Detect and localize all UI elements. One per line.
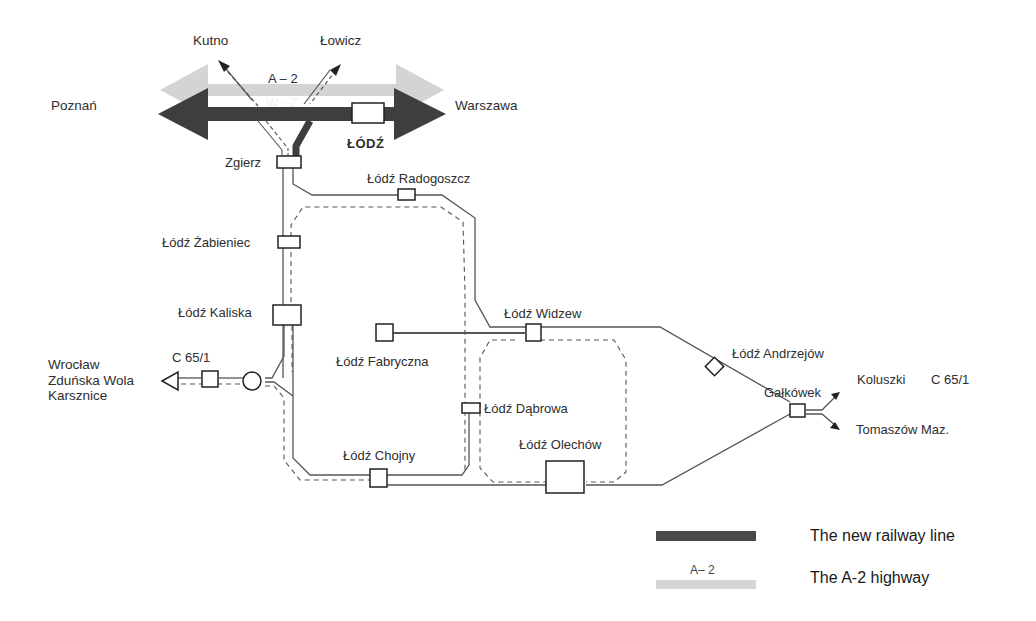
label-wz: W - Z xyxy=(266,95,298,110)
label-station-widzew: Łódź Widzew xyxy=(504,306,581,321)
label-station-dabrowa: Łódź Dąbrowa xyxy=(484,401,568,416)
station-zgierz-box xyxy=(277,156,301,168)
label-station-zabieniec: Łódź Żabieniec xyxy=(162,235,250,250)
arrow-lowicz-icon xyxy=(330,64,341,76)
new-railway-line xyxy=(158,88,446,160)
station-markers xyxy=(162,156,805,493)
label-warszawa: Warszawa xyxy=(455,98,518,113)
junction-circle xyxy=(243,372,261,390)
station-olechow-box xyxy=(546,461,584,493)
station-fabryczna-box xyxy=(376,324,393,341)
label-lodz: ŁÓDŹ xyxy=(347,136,384,151)
label-lowicz: Łowicz xyxy=(320,33,361,48)
arrow-kutno-icon xyxy=(218,60,230,72)
label-station-galkowek: Gałkówek xyxy=(764,385,821,400)
station-dabrowa-box xyxy=(462,403,480,413)
legend-highway-label: The A-2 highway xyxy=(810,569,929,587)
tracks-solid xyxy=(176,167,836,485)
legend-railway-label: The new railway line xyxy=(810,527,955,545)
station-widzew-box xyxy=(526,324,541,341)
legend-swatches xyxy=(656,531,756,589)
legend-highway-swatch-text: A– 2 xyxy=(690,563,715,578)
label-a2: A – 2 xyxy=(268,71,298,86)
label-poznan: Poznań xyxy=(51,98,97,113)
station-zabieniec-box xyxy=(278,236,300,248)
label-station-zgierz: Zgierz xyxy=(225,155,261,170)
label-station-fabryczna: Łódź Fabryczna xyxy=(336,354,429,369)
arrow-tomaszow-icon xyxy=(830,422,840,430)
label-east-line: C 65/1 xyxy=(931,372,969,387)
station-chojny-box xyxy=(370,469,387,487)
zgierz-funnel xyxy=(258,121,288,158)
label-station-olechow: Łódź Olechów xyxy=(519,437,601,452)
station-galkowek-box xyxy=(790,404,805,417)
label-station-andrzejow: Łódź Andrzejów xyxy=(732,346,824,361)
label-zdunska-wola: Zduńska Wola xyxy=(48,373,134,388)
label-tomaszow: Tomaszów Maz. xyxy=(856,422,949,437)
east-exit-arrows xyxy=(830,392,840,430)
label-station-radogoszcz: Łódź Radogoszcz xyxy=(367,171,470,186)
legend-highway-swatch xyxy=(656,580,756,589)
label-kutno: Kutno xyxy=(193,33,228,48)
station-radogoszcz-box xyxy=(398,189,415,200)
label-west-line: C 65/1 xyxy=(172,350,210,365)
label-koluszki: Koluszki xyxy=(857,372,905,387)
arrow-west-exit-icon xyxy=(162,372,178,390)
station-kaliska-box xyxy=(273,305,301,325)
label-karsznice: Karsznice xyxy=(48,388,107,403)
station-lodz-main xyxy=(352,103,384,123)
label-wroclaw: Wrocław xyxy=(48,357,100,372)
station-andrzejow-diamond xyxy=(705,357,723,375)
label-station-kaliska: Łódź Kaliska xyxy=(178,305,252,320)
label-station-chojny: Łódź Chojny xyxy=(343,448,415,463)
station-c651-box xyxy=(202,371,218,387)
legend-railway-swatch xyxy=(656,531,756,541)
